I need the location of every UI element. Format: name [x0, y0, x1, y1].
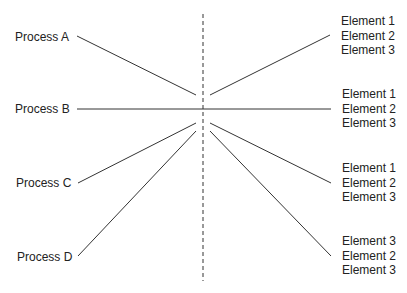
element-item: Element 2 — [342, 102, 396, 117]
element-item: Element 1 — [342, 87, 396, 102]
group-3-connector — [210, 123, 331, 183]
group-1-connector — [210, 35, 330, 95]
process-d-connector — [78, 131, 196, 256]
element-item: Element 3 — [342, 263, 396, 278]
element-group-3: Element 1 Element 2 Element 3 — [342, 161, 396, 205]
element-item: Element 2 — [342, 176, 396, 191]
element-item: Element 1 — [342, 161, 396, 176]
element-item: Element 3 — [342, 190, 396, 205]
element-group-1: Element 1 Element 2 Element 3 — [341, 14, 395, 58]
process-a-connector — [77, 36, 196, 95]
element-item: Element 3 — [341, 43, 395, 58]
process-a-label: Process A — [15, 30, 69, 44]
group-4-connector — [210, 131, 331, 256]
element-item: Element 3 — [342, 116, 396, 131]
element-group-2: Element 1 Element 2 Element 3 — [342, 87, 396, 131]
process-c-connector — [78, 123, 196, 183]
process-b-label: Process B — [15, 102, 70, 116]
element-item: Element 2 — [342, 249, 396, 264]
process-c-label: Process C — [16, 176, 71, 190]
element-item: Element 2 — [341, 29, 395, 44]
element-item: Element 3 — [342, 234, 396, 249]
process-d-label: Process D — [17, 250, 72, 264]
element-item: Element 1 — [341, 14, 395, 29]
element-group-4: Element 3 Element 2 Element 3 — [342, 234, 396, 278]
